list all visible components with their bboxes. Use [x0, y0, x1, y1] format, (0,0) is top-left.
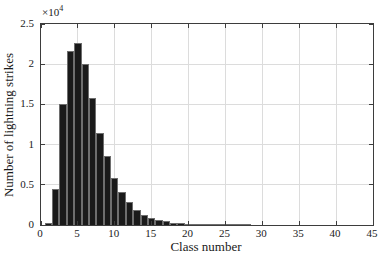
- x-tick-label: 20: [173, 227, 203, 239]
- y-tick-mark: [41, 104, 45, 105]
- x-tick-mark-top: [373, 24, 374, 28]
- gridline-vertical: [262, 24, 263, 225]
- x-tick-mark-top: [336, 24, 337, 28]
- y-tick-label: 2.5: [4, 17, 34, 29]
- bar: [207, 224, 214, 225]
- y-axis-multiplier: ×104: [42, 6, 63, 18]
- bar: [67, 51, 74, 225]
- y-tick-mark-right: [369, 24, 373, 25]
- bar: [126, 202, 133, 225]
- x-tick-mark-top: [188, 24, 189, 28]
- y-tick-label: 1: [4, 138, 34, 150]
- gridline-vertical: [188, 24, 189, 225]
- x-tick-mark-top: [299, 24, 300, 28]
- bar: [118, 192, 125, 225]
- bar: [104, 156, 111, 225]
- gridline-horizontal: [41, 64, 373, 65]
- y-tick-label: 2: [4, 57, 34, 69]
- bar: [177, 223, 184, 225]
- y-tick-mark: [41, 64, 45, 65]
- bar: [229, 224, 236, 225]
- gridline-vertical: [336, 24, 337, 225]
- bar: [141, 215, 148, 225]
- y-tick-mark-right: [369, 104, 373, 105]
- bar: [170, 223, 177, 225]
- plot-area: [40, 23, 374, 226]
- bar: [192, 224, 199, 225]
- bar: [111, 178, 118, 225]
- x-tick-mark: [77, 221, 78, 225]
- x-tick-label: 40: [320, 227, 350, 239]
- y-tick-mark-right: [369, 144, 373, 145]
- bar: [74, 43, 81, 225]
- gridline-vertical: [299, 24, 300, 225]
- bar: [155, 220, 162, 225]
- bar: [133, 210, 140, 225]
- x-tick-label: 25: [209, 227, 239, 239]
- y-axis-multiplier-base: ×10: [42, 6, 59, 18]
- x-tick-mark: [114, 221, 115, 225]
- x-tick-label: 30: [246, 227, 276, 239]
- bar: [59, 104, 66, 225]
- y-axis-multiplier-exponent: 4: [59, 4, 63, 13]
- x-tick-mark: [336, 221, 337, 225]
- x-tick-mark: [188, 221, 189, 225]
- y-tick-mark: [41, 184, 45, 185]
- bar: [244, 224, 251, 225]
- bar: [82, 64, 89, 225]
- x-tick-mark: [262, 221, 263, 225]
- y-tick-label: 1.5: [4, 97, 34, 109]
- x-axis-label: Class number: [40, 239, 372, 255]
- bar: [45, 223, 52, 225]
- x-tick-label: 10: [99, 227, 129, 239]
- x-tick-mark: [225, 221, 226, 225]
- bar: [52, 189, 59, 225]
- x-tick-mark-top: [262, 24, 263, 28]
- y-tick-label: 0: [4, 218, 34, 230]
- x-tick-label: 5: [62, 227, 92, 239]
- bar: [214, 224, 221, 225]
- x-tick-label: 45: [357, 227, 387, 239]
- x-tick-label: 15: [136, 227, 166, 239]
- figure: ×104 Number of lightning strikes 0510152…: [0, 0, 388, 267]
- y-tick-mark: [41, 144, 45, 145]
- bar: [237, 224, 244, 225]
- x-tick-mark: [151, 221, 152, 225]
- y-tick-mark-right: [369, 184, 373, 185]
- y-tick-mark-right: [369, 64, 373, 65]
- gridline-vertical: [225, 24, 226, 225]
- y-tick-mark: [41, 24, 45, 25]
- x-tick-mark: [299, 221, 300, 225]
- bar: [163, 221, 170, 225]
- bar: [89, 98, 96, 225]
- x-tick-mark-top: [77, 24, 78, 28]
- bar: [96, 133, 103, 225]
- y-tick-mark: [41, 225, 45, 226]
- x-tick-mark-top: [151, 24, 152, 28]
- gridline-vertical: [151, 24, 152, 225]
- y-tick-mark-right: [369, 225, 373, 226]
- bar: [200, 224, 207, 225]
- y-tick-label: 0.5: [4, 178, 34, 190]
- x-tick-mark-top: [114, 24, 115, 28]
- x-tick-mark-top: [41, 24, 42, 28]
- x-tick-mark-top: [225, 24, 226, 28]
- x-tick-label: 35: [283, 227, 313, 239]
